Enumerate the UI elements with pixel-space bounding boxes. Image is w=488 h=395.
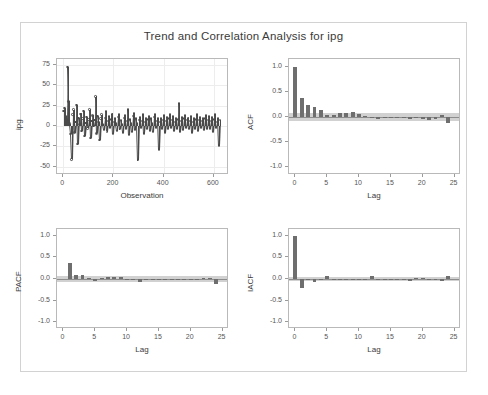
y-tickmark — [285, 300, 288, 301]
bar — [421, 117, 425, 119]
series-marker — [115, 122, 117, 124]
series-needle — [220, 120, 221, 126]
series-marker — [135, 117, 137, 119]
series-marker — [133, 112, 135, 114]
bar — [176, 279, 180, 280]
x-tick-label: 400 — [148, 179, 178, 186]
y-tickmark — [53, 321, 56, 322]
bar — [395, 279, 399, 280]
bar — [370, 276, 374, 279]
bar — [389, 117, 393, 118]
series-marker — [72, 108, 74, 110]
series-marker — [185, 126, 187, 128]
series-marker — [194, 127, 196, 129]
series-marker — [124, 114, 126, 116]
y-tickmark — [285, 116, 288, 117]
series-marker — [116, 130, 118, 132]
series-marker — [155, 126, 157, 128]
bar — [300, 279, 304, 288]
bar — [81, 275, 85, 279]
series-needle — [112, 114, 113, 126]
series-marker — [154, 113, 156, 115]
bar — [300, 98, 304, 117]
y-tickmark — [285, 166, 288, 167]
bar — [214, 279, 218, 284]
y-tick-label: 1.0 — [254, 231, 282, 238]
bar — [208, 278, 212, 279]
series-marker — [122, 131, 124, 133]
y-tickmark — [53, 235, 56, 236]
series-marker — [100, 113, 102, 115]
series-marker — [163, 114, 165, 116]
y-tick-label: 0.0 — [254, 112, 282, 119]
series-marker — [91, 114, 93, 116]
zero-reference-line — [57, 279, 228, 280]
series-marker — [109, 126, 111, 128]
y-tickmark — [285, 235, 288, 236]
y-tick-label: 0.0 — [22, 274, 50, 281]
x-tickmark — [422, 174, 423, 177]
bar — [446, 117, 450, 123]
series-needle — [90, 110, 91, 126]
series-marker — [68, 122, 70, 124]
series-marker — [142, 113, 144, 115]
bar — [408, 279, 412, 281]
x-tick-label: 5 — [311, 179, 341, 186]
x-tickmark — [126, 328, 127, 331]
x-tick-label: 20 — [407, 179, 437, 186]
series-marker — [77, 117, 79, 119]
y-tick-label: 0 — [22, 121, 50, 128]
y-tickmark — [285, 321, 288, 322]
series-marker — [114, 117, 116, 119]
x-tick-label: 25 — [207, 333, 237, 340]
series-marker — [88, 108, 90, 110]
series-marker — [103, 129, 105, 131]
bar — [351, 279, 355, 280]
y-tick-label: -25 — [22, 141, 50, 148]
series-marker — [86, 127, 88, 129]
series-marker — [106, 131, 108, 133]
series-marker — [182, 129, 184, 131]
series-marker — [129, 118, 131, 120]
series-marker — [63, 107, 65, 109]
bar — [119, 277, 123, 279]
y-tickmark — [53, 300, 56, 301]
series-needle — [78, 126, 79, 144]
series-marker — [75, 104, 77, 106]
bar — [313, 107, 317, 117]
bar — [195, 279, 199, 280]
x-tick-label: 10 — [343, 179, 373, 186]
x-tick-label: 20 — [407, 333, 437, 340]
series-marker — [170, 126, 172, 128]
y-tickmark — [53, 145, 56, 146]
x-tick-label: 600 — [198, 179, 228, 186]
bar — [151, 279, 155, 280]
series-needle — [100, 126, 101, 140]
x-tickmark — [454, 174, 455, 177]
x-tick-label: 0 — [279, 179, 309, 186]
bar — [202, 278, 206, 279]
series-marker — [89, 137, 91, 139]
series-needle — [219, 126, 220, 146]
y-tick-label: 0.5 — [254, 87, 282, 94]
bar — [363, 279, 367, 280]
series-marker — [127, 108, 129, 110]
series-marker — [149, 130, 151, 132]
series-needle — [74, 110, 75, 126]
series-marker — [125, 127, 127, 129]
x-tick-label: 15 — [375, 179, 405, 186]
bar — [293, 236, 297, 279]
bar — [414, 117, 418, 118]
bar — [325, 276, 329, 279]
x-tick-label: 25 — [439, 179, 469, 186]
x-tickmark — [112, 174, 113, 177]
series-marker — [197, 130, 199, 132]
series-marker — [137, 159, 139, 161]
x-tickmark — [422, 328, 423, 331]
x-tickmark — [94, 328, 95, 331]
bar — [357, 114, 361, 117]
x-tick-label: 5 — [79, 333, 109, 340]
y-tick-label: -50 — [22, 162, 50, 169]
series-marker — [119, 128, 121, 130]
bar — [138, 279, 142, 282]
